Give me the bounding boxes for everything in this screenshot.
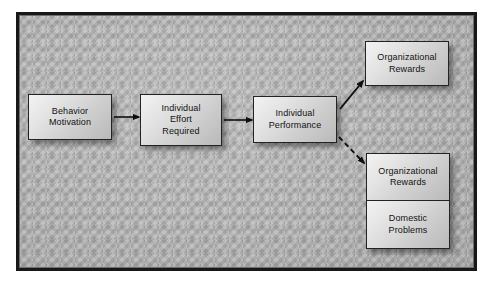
node-behavior-motivation-label: Behavior Motivation	[49, 106, 91, 129]
node-individual-performance[interactable]: Individual Performance	[253, 96, 337, 143]
node-organizational-rewards-bottom[interactable]: Organizational Rewards	[366, 153, 450, 201]
node-domestic-problems-label: Domestic Problems	[389, 213, 428, 236]
node-individual-effort-required[interactable]: Individual Effort Required	[140, 94, 222, 146]
node-organizational-rewards-top[interactable]: Organizational Rewards	[365, 41, 449, 86]
outcomes-stack: Organizational Rewards Domestic Problems	[366, 153, 450, 249]
node-organizational-rewards-top-label: Organizational Rewards	[377, 52, 436, 75]
diagram-frame: Behavior Motivation Individual Effort Re…	[16, 12, 477, 271]
diagram-screenshot: Behavior Motivation Individual Effort Re…	[0, 0, 492, 282]
node-behavior-motivation[interactable]: Behavior Motivation	[28, 94, 112, 140]
node-individual-effort-required-label: Individual Effort Required	[161, 103, 200, 138]
node-individual-performance-label: Individual Performance	[269, 108, 322, 131]
node-organizational-rewards-bottom-label: Organizational Rewards	[378, 166, 437, 189]
node-domestic-problems[interactable]: Domestic Problems	[366, 201, 450, 249]
